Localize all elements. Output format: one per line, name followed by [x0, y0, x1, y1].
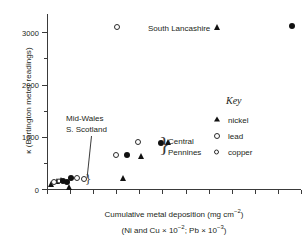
x-axis-title-line1-close: ): [241, 210, 244, 219]
x-tick-11: [301, 190, 302, 194]
scatter-plot-figure: 0100020003000 κ (Bartington meter readin…: [0, 0, 307, 240]
annotation-central-pennines-line1: Central: [168, 137, 201, 148]
annotation-south-lancashire: South Lancashire: [148, 24, 210, 35]
y-axis-line: [47, 14, 48, 189]
legend-marker-lead-icon: [214, 133, 220, 139]
annotation-central-pennines-line2: Pennines: [168, 148, 201, 159]
x-axis-title-line1-text: Cumulative metal deposition (mg cm: [105, 210, 234, 219]
x-tick-6: [186, 190, 187, 194]
annotation-mid-wales-line1: Mid-Wales: [66, 114, 107, 125]
data-point-nickel-4: [120, 175, 126, 181]
x-axis-title-line2-close: ): [224, 225, 227, 234]
data-point-lead-5: [114, 24, 120, 30]
x-axis-title: Cumulative metal deposition (mg cm−2) (N…: [47, 205, 301, 236]
legend-label-lead: lead: [228, 132, 243, 141]
annotation-mid-wales: Mid-Wales S. Scotland: [66, 114, 107, 135]
x-tick-10: [278, 190, 279, 194]
y-tick-3000: 3000: [42, 32, 47, 33]
x-tick-1: [70, 190, 71, 194]
x-tick-4: [139, 190, 140, 194]
brace-central-pennines: }: [159, 133, 170, 155]
y-tick-1000: 1000: [42, 137, 47, 138]
y-axis-title: κ (Bartington meter readings): [24, 11, 33, 191]
x-axis-title-line2: (Ni and Cu × 10−2; Pb × 10−3): [47, 221, 301, 237]
data-point-nickel-5: [138, 153, 144, 159]
y-tick-minor-1500: [44, 111, 47, 112]
data-point-nickel-7: [214, 24, 220, 30]
legend-item-nickel: nickel: [212, 112, 292, 128]
x-axis-title-line1-exponent: −2: [234, 208, 241, 214]
x-tick-0: [47, 190, 48, 194]
legend-item-copper: copper: [212, 144, 292, 160]
data-point-filled-circle-series-3: [124, 152, 130, 158]
data-point-lead-1: [74, 175, 80, 181]
x-tick-8: [232, 190, 233, 194]
legend-label-nickel: nickel: [228, 116, 248, 125]
x-axis-line: [47, 189, 301, 190]
x-axis-title-line2-text: (Ni and Cu × 10: [122, 225, 178, 234]
legend-rows: nickelleadcopper: [212, 112, 292, 160]
legend-marker-nickel-icon: [214, 117, 220, 122]
x-axis-title-line2-exponent1: −2: [178, 224, 185, 230]
y-tick-minor-2500: [44, 58, 47, 59]
x-tick-7: [209, 190, 210, 194]
y-tick-minor-500: [44, 163, 47, 164]
x-axis-title-line2-mid: ; Pb × 10: [185, 225, 217, 234]
data-point-filled-circle-series-2: [68, 175, 74, 181]
x-tick-9: [255, 190, 256, 194]
legend-item-lead: lead: [212, 128, 292, 144]
legend-marker-copper-icon: [214, 150, 219, 155]
data-point-filled-circle-series-5: [289, 23, 295, 29]
data-point-lead-3: [113, 152, 119, 158]
legend-title: Key: [226, 95, 292, 106]
x-tick-5: [162, 190, 163, 194]
data-point-lead-4: [135, 139, 141, 145]
x-axis-title-line1: Cumulative metal deposition (mg cm−2): [105, 210, 244, 219]
legend-key: Key nickelleadcopper: [212, 95, 292, 160]
annotation-central-pennines: Central Pennines: [168, 137, 201, 158]
legend-label-copper: copper: [228, 148, 252, 157]
brace-mid-wales: }: [85, 172, 91, 185]
x-axis-title-line2-exponent2: −3: [217, 224, 224, 230]
y-tick-2000: 2000: [42, 85, 47, 86]
y-tick-label-0: 0: [35, 185, 39, 194]
x-tick-3: [116, 190, 117, 194]
annotation-mid-wales-line2: S. Scotland: [66, 125, 107, 136]
x-tick-2: [93, 190, 94, 194]
data-point-nickel-3: [66, 184, 72, 190]
